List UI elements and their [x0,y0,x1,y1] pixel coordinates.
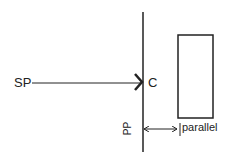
label-pp: PP [122,122,133,135]
ray-arrowhead-icon [135,74,142,90]
label-c: C [148,75,157,90]
diagram-canvas [0,0,228,160]
label-sp: SP [14,75,31,90]
label-parallel: parallel [182,121,217,133]
object-rectangle [178,35,213,118]
